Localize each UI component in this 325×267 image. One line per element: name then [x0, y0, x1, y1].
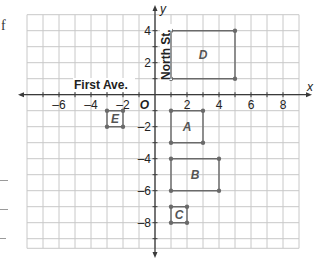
- y-tick-label: –2: [138, 120, 152, 134]
- rectangle-label: D: [199, 48, 208, 62]
- vertex-point: [105, 125, 109, 129]
- vertex-point: [169, 157, 173, 161]
- coordinate-grid: –6–4–2246842–2–4–6–8Oxy DABCE First Ave.…: [0, 0, 325, 267]
- x-tick-label: 2: [184, 98, 191, 112]
- y-tick-label: 2: [144, 56, 151, 70]
- y-axis-down-arrow-icon: [153, 252, 158, 258]
- rectangle-label: A: [182, 120, 192, 134]
- y-axis-up-arrow-icon: [153, 5, 158, 11]
- vertex-point: [105, 109, 109, 113]
- rectangle-label: C: [175, 208, 184, 222]
- vertex-point: [169, 141, 173, 145]
- rectangle-label: B: [191, 168, 200, 182]
- vertex-point: [169, 189, 173, 193]
- rectangle-label: E: [111, 112, 120, 126]
- x-axis-left-arrow-icon: [18, 92, 24, 97]
- vertex-point: [169, 109, 173, 113]
- vertex-point: [201, 141, 205, 145]
- vertex-point: [185, 221, 189, 225]
- vertex-point: [201, 109, 205, 113]
- y-tick-label: –8: [138, 216, 152, 230]
- vertex-point: [121, 125, 125, 129]
- vertex-point: [217, 157, 221, 161]
- tick-labels: –6–4–2246842–2–4–6–8Oxy: [52, 2, 314, 230]
- vertex-point: [233, 29, 237, 33]
- x-tick-label: –4: [84, 98, 98, 112]
- figure-stage: f –6–4–2246842–2–4–6–8Oxy DABCE First Av…: [0, 0, 325, 267]
- y-axis-label: y: [159, 2, 167, 16]
- x-tick-label: –6: [52, 98, 66, 112]
- vertex-point: [169, 205, 173, 209]
- vertex-point: [121, 109, 125, 113]
- vertex-point: [233, 77, 237, 81]
- vertex-point: [185, 205, 189, 209]
- first-ave-label: First Ave.: [74, 78, 128, 92]
- x-tick-label: 6: [248, 98, 255, 112]
- x-tick-label: 8: [280, 98, 287, 112]
- y-tick-label: –6: [138, 184, 152, 198]
- y-tick-label: 4: [144, 24, 151, 38]
- vertex-point: [217, 189, 221, 193]
- y-tick-label: –4: [138, 152, 152, 166]
- vertex-point: [169, 221, 173, 225]
- x-tick-label: 4: [216, 98, 223, 112]
- x-axis-label: x: [306, 80, 314, 94]
- origin-label: O: [140, 98, 150, 112]
